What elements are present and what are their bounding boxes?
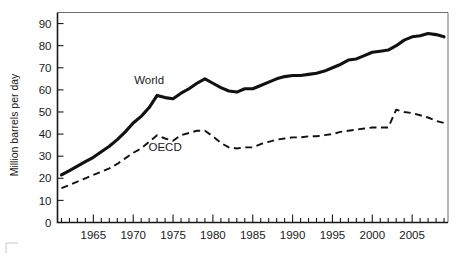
series-annotation-world: World [134,74,164,86]
x-tick-label: 1985 [240,229,266,241]
y-tick-label: 80 [39,40,52,52]
y-tick-label: 20 [39,172,52,184]
line-chart: 0102030405060708090 19651970197519801985… [0,0,474,259]
x-tick-label: 1970 [120,229,146,241]
x-tick-label: 1975 [160,229,186,241]
x-axis-tick-labels: 196519701975198019851990199520002005 [81,229,425,241]
x-tick-label: 1965 [81,229,107,241]
x-tick-label: 2000 [359,229,385,241]
chart-figure: 0102030405060708090 19651970197519801985… [0,0,474,259]
y-tick-label: 70 [39,62,52,74]
y-tick-label: 0 [45,217,51,229]
x-tick-label: 2005 [399,229,425,241]
y-axis-title: Million barrels per day [8,73,20,176]
x-tick-label: 1995 [320,229,346,241]
x-tick-label: 1990 [280,229,306,241]
y-tick-label: 60 [39,84,52,96]
y-tick-label: 10 [39,195,52,207]
y-tick-label: 50 [39,106,52,118]
y-tick-label: 30 [39,150,52,162]
x-tick-label: 1980 [200,229,226,241]
series-annotation-oecd: OECD [148,141,181,153]
y-tick-label: 90 [39,18,52,30]
y-tick-label: 40 [39,128,52,140]
